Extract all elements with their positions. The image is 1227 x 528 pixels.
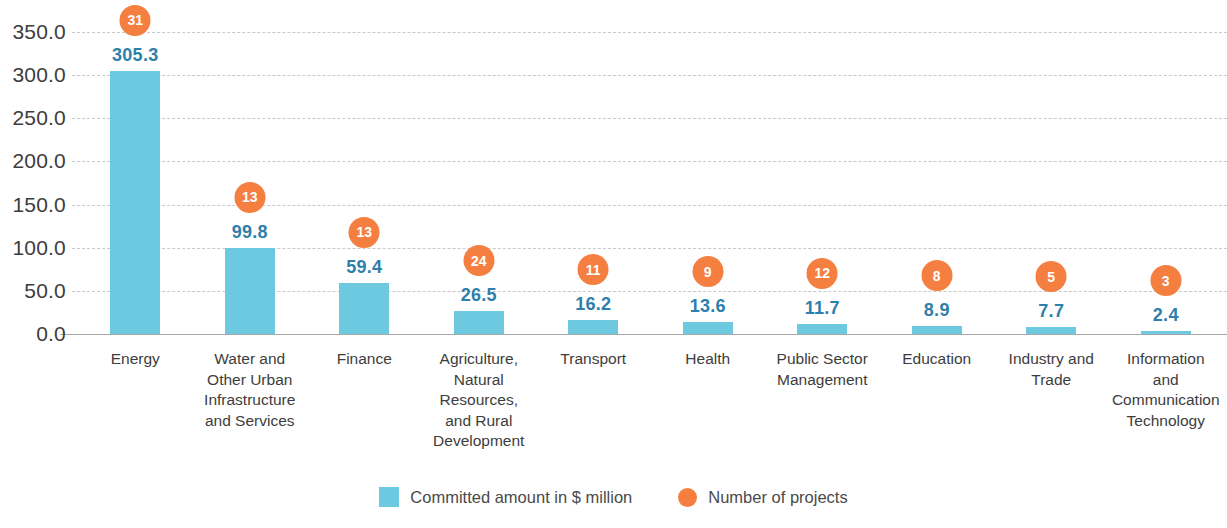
project-count-value: 24 (471, 254, 487, 268)
category-axis-label: Education (874, 349, 1001, 370)
category-label-line: Communication (1103, 390, 1227, 411)
category-axis-label: Health (645, 349, 772, 370)
category-label-line: Information (1103, 349, 1227, 370)
project-count-bubble[interactable]: 31 (120, 5, 151, 36)
category-label-line: Management (759, 370, 886, 391)
y-axis-tick-label: 50.0 (0, 279, 66, 303)
project-count-value: 12 (814, 266, 830, 280)
legend-circle-swatch-icon (678, 488, 697, 507)
legend-item[interactable]: Committed amount in $ million (379, 487, 632, 507)
legend-item[interactable]: Number of projects (678, 488, 847, 507)
bar[interactable] (1141, 331, 1191, 334)
category-label-line: and (1103, 370, 1227, 391)
category-label-line: Natural (416, 370, 543, 391)
category-axis-label: InformationandCommunicationTechnology (1103, 349, 1227, 431)
bar-group[interactable]: 26.524 (422, 0, 537, 345)
bar-value-label: 2.4 (1153, 305, 1179, 326)
legend-square-swatch-icon (379, 487, 399, 507)
bar-group[interactable]: 11.712 (765, 0, 880, 345)
project-count-bubble[interactable]: 5 (1036, 261, 1067, 292)
bar-value-label: 7.7 (1038, 301, 1064, 322)
category-label-line: and Services (187, 411, 314, 432)
category-axis: EnergyWater andOther UrbanInfrastructure… (0, 345, 1227, 465)
project-count-value: 11 (586, 263, 601, 277)
category-label-line: Health (645, 349, 772, 370)
bar-group[interactable]: 7.75 (994, 0, 1109, 345)
chart-legend: Committed amount in $ millionNumber of p… (0, 487, 1227, 507)
bar-value-label: 8.9 (924, 300, 950, 321)
project-count-bubble[interactable]: 12 (807, 258, 838, 289)
project-count-value: 8 (933, 269, 941, 283)
category-label-line: Water and (187, 349, 314, 370)
project-count-value: 13 (356, 225, 372, 239)
category-axis-label: Public SectorManagement (759, 349, 886, 390)
bar-value-label: 11.7 (805, 298, 840, 319)
bar[interactable] (339, 283, 389, 334)
category-label-line: Education (874, 349, 1001, 370)
category-axis-label: Water andOther UrbanInfrastructureand Se… (187, 349, 314, 431)
category-label-line: Industry and (988, 349, 1115, 370)
bar[interactable] (568, 320, 618, 334)
project-count-value: 5 (1047, 270, 1055, 284)
bar-chart: 350.0300.0250.0200.0150.0100.050.00.0305… (0, 0, 1227, 528)
project-count-value: 31 (127, 13, 143, 27)
project-count-bubble[interactable]: 3 (1150, 265, 1181, 296)
y-axis-tick-label: 200.0 (0, 149, 66, 173)
bar-group[interactable]: 8.98 (880, 0, 995, 345)
bar-group[interactable]: 2.43 (1109, 0, 1224, 345)
project-count-value: 13 (242, 190, 258, 204)
bar[interactable] (683, 322, 733, 334)
bar-group[interactable]: 305.331 (78, 0, 193, 345)
category-label-line: Other Urban (187, 370, 314, 391)
bar-value-label: 26.5 (461, 285, 497, 306)
bar-value-label: 59.4 (346, 257, 382, 278)
project-count-bubble[interactable]: 13 (349, 217, 380, 248)
project-count-value: 3 (1162, 274, 1170, 288)
legend-label: Committed amount in $ million (410, 488, 632, 507)
y-axis-tick-label: 250.0 (0, 106, 66, 130)
y-axis-tick-label: 350.0 (0, 20, 66, 44)
category-label-line: Transport (530, 349, 657, 370)
category-label-line: Public Sector (759, 349, 886, 370)
bar[interactable] (110, 71, 160, 334)
y-axis-tick-label: 300.0 (0, 63, 66, 87)
bar-group[interactable]: 59.413 (307, 0, 422, 345)
category-axis-label: Agriculture,NaturalResources,and RuralDe… (416, 349, 543, 452)
category-label-line: Resources, (416, 390, 543, 411)
project-count-value: 9 (704, 265, 712, 279)
category-label-line: Agriculture, (416, 349, 543, 370)
bar-value-label: 99.8 (232, 222, 268, 243)
category-label-line: Development (416, 431, 543, 452)
bar[interactable] (912, 326, 962, 334)
project-count-bubble[interactable]: 24 (463, 245, 494, 276)
category-label-line: Technology (1103, 411, 1227, 432)
project-count-bubble[interactable]: 13 (234, 182, 265, 213)
y-axis-tick-label: 150.0 (0, 193, 66, 217)
bar-group[interactable]: 16.211 (536, 0, 651, 345)
category-label-line: Finance (301, 349, 428, 370)
bar-value-label: 305.3 (112, 45, 159, 66)
project-count-bubble[interactable]: 9 (692, 256, 723, 287)
bar[interactable] (225, 248, 275, 334)
bar[interactable] (1026, 327, 1076, 334)
bar[interactable] (454, 311, 504, 334)
category-axis-label: Industry andTrade (988, 349, 1115, 390)
project-count-bubble[interactable]: 11 (578, 254, 609, 285)
bar-group[interactable]: 99.813 (193, 0, 308, 345)
category-label-line: Trade (988, 370, 1115, 391)
project-count-bubble[interactable]: 8 (921, 260, 952, 291)
y-axis-tick-label: 100.0 (0, 236, 66, 260)
bar-value-label: 13.6 (690, 296, 726, 317)
category-label-line: and Rural (416, 411, 543, 432)
bar-group[interactable]: 13.69 (651, 0, 766, 345)
category-axis-label: Finance (301, 349, 428, 370)
bar-value-label: 16.2 (575, 294, 611, 315)
category-axis-label: Transport (530, 349, 657, 370)
category-axis-label: Energy (72, 349, 199, 370)
y-axis-tick-label: 0.0 (0, 322, 66, 346)
legend-label: Number of projects (708, 488, 847, 507)
category-label-line: Energy (72, 349, 199, 370)
plot-area: 350.0300.0250.0200.0150.0100.050.00.0305… (0, 0, 1227, 345)
category-label-line: Infrastructure (187, 390, 314, 411)
bar[interactable] (797, 324, 847, 334)
